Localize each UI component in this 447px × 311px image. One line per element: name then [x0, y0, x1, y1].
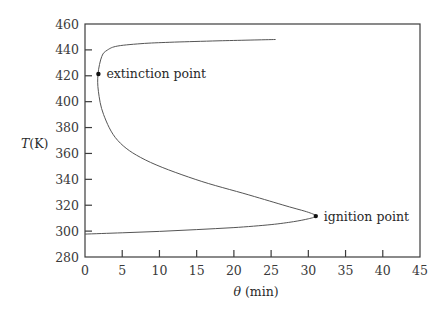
y-tick-label: 300	[55, 224, 79, 239]
x-axis-title: θ (min)	[233, 284, 278, 299]
y-tick-label: 280	[55, 250, 79, 265]
extinction-point-label: extinction point	[106, 66, 206, 81]
y-axis-title: T(K)	[21, 136, 48, 151]
ignition-point-marker	[314, 214, 318, 218]
annotations: extinction pointignition point	[96, 66, 409, 223]
extinction-point-marker	[96, 72, 100, 76]
chart-canvas: 280300320340360380400420440460 051015202…	[0, 0, 447, 311]
x-tick-label: 45	[412, 263, 428, 278]
x-tick-label: 20	[226, 263, 242, 278]
x-tick-label: 0	[81, 263, 89, 278]
ignition-point-label: ignition point	[324, 209, 409, 224]
x-tick-label: 30	[300, 263, 316, 278]
y-tick-label: 380	[55, 120, 79, 135]
x-tick-label: 25	[263, 263, 279, 278]
y-tick-label: 420	[55, 68, 79, 83]
x-tick-label: 15	[189, 263, 205, 278]
x-tick-label: 5	[118, 263, 126, 278]
y-tick-label: 440	[55, 42, 79, 57]
x-axis-unit-text: (min)	[245, 284, 279, 299]
x-tick-label: 40	[375, 263, 391, 278]
x-axis-ticks: 051015202530354045	[81, 250, 428, 278]
x-tick-label: 10	[151, 263, 167, 278]
y-tick-label: 460	[55, 17, 79, 32]
y-axis-unit: (K)	[29, 136, 48, 151]
y-tick-label: 340	[55, 172, 79, 187]
y-tick-label: 320	[55, 198, 79, 213]
y-tick-label: 360	[55, 146, 79, 161]
y-axis-ticks: 280300320340360380400420440460	[55, 17, 92, 265]
y-tick-label: 400	[55, 94, 79, 109]
x-tick-label: 35	[338, 263, 354, 278]
